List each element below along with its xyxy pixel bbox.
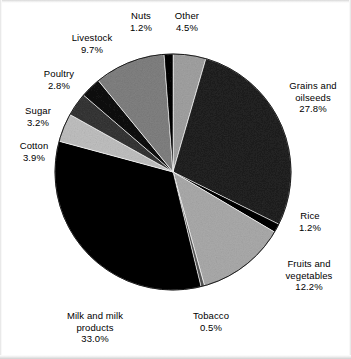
pie-label-cotton: Cotton3.9% [7,140,61,163]
pie-chart-figure: Nuts1.2%Other4.5%Livestock9.7%Poultry2.8… [0,0,351,359]
pie-label-percent-sugar: 3.2% [12,117,64,129]
pie-label-name-grains: Grains and oilseeds [278,80,348,103]
pie-label-grains: Grains and oilseeds27.8% [278,80,348,115]
pie-label-name-other: Other [164,10,210,22]
pie-label-name-tobacco: Tobacco [182,310,240,322]
pie-label-percent-poultry: 2.8% [32,80,86,92]
pie-label-tobacco: Tobacco0.5% [182,310,240,333]
pie-label-name-rice: Rice [288,210,332,222]
pie-label-percent-nuts: 1.2% [120,22,162,34]
pie-chart-graphic [0,0,351,359]
pie-label-livestock: Livestock9.7% [62,32,122,55]
pie-label-nuts: Nuts1.2% [120,10,162,33]
pie-label-name-nuts: Nuts [120,10,162,22]
pie-label-percent-milk: 33.0% [50,333,140,345]
pie-label-rice: Rice1.2% [288,210,332,233]
pie-label-fruits: Fruits and vegetables12.2% [272,258,346,293]
pie-label-name-livestock: Livestock [62,32,122,44]
pie-label-percent-fruits: 12.2% [272,281,346,293]
pie-label-percent-tobacco: 0.5% [182,322,240,334]
pie-label-poultry: Poultry2.8% [32,68,86,91]
pie-label-name-sugar: Sugar [12,105,64,117]
pie-label-percent-cotton: 3.9% [7,152,61,164]
pie-label-name-milk: Milk and milk products [50,310,140,333]
pie-label-percent-grains: 27.8% [278,103,348,115]
pie-label-name-fruits: Fruits and vegetables [272,258,346,281]
pie-label-percent-other: 4.5% [164,22,210,34]
pie-label-percent-livestock: 9.7% [62,44,122,56]
pie-label-milk: Milk and milk products33.0% [50,310,140,345]
pie-label-sugar: Sugar3.2% [12,105,64,128]
pie-label-other: Other4.5% [164,10,210,33]
pie-label-name-poultry: Poultry [32,68,86,80]
pie-slices [55,54,291,290]
pie-label-name-cotton: Cotton [7,140,61,152]
pie-label-percent-rice: 1.2% [288,222,332,234]
